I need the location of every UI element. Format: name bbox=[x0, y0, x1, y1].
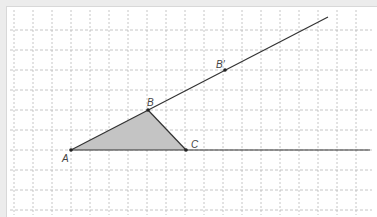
point-b bbox=[146, 108, 150, 112]
label-a: A bbox=[61, 153, 69, 164]
triangle-abc bbox=[71, 110, 186, 150]
geometry-diagram: A B C B' bbox=[0, 0, 377, 217]
label-b-prime: B' bbox=[216, 59, 226, 70]
dotted-grid bbox=[10, 10, 372, 215]
point-a bbox=[69, 148, 73, 152]
label-c: C bbox=[191, 139, 199, 150]
point-c bbox=[184, 148, 188, 152]
ray-AB bbox=[71, 17, 328, 150]
label-b: B bbox=[147, 97, 154, 108]
